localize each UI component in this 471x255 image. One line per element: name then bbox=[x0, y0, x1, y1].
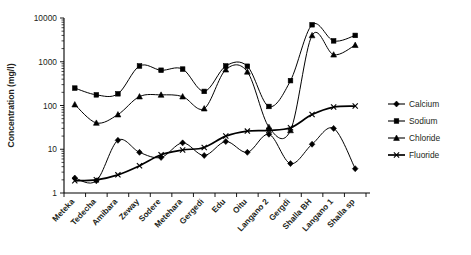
legend-item-fluoride[interactable]: Fluoride bbox=[388, 150, 440, 160]
data-point-calcium-10 bbox=[288, 161, 294, 167]
data-point-sodium-0 bbox=[72, 86, 77, 91]
y-tick-label: 10000 bbox=[34, 13, 58, 23]
legend-marker-diamond bbox=[394, 101, 400, 107]
legend-item-chloride[interactable]: Chloride bbox=[388, 133, 441, 143]
legend-marker-square bbox=[394, 119, 399, 124]
chart-figure: 110100100010000MetekaTedechaAmibaraZeway… bbox=[0, 0, 471, 255]
y-tick-label: 100 bbox=[43, 101, 57, 111]
data-point-sodium-9 bbox=[267, 104, 272, 109]
data-point-sodium-10 bbox=[288, 78, 293, 83]
series-line-chloride bbox=[75, 32, 355, 138]
concentration-line-chart: 110100100010000MetekaTedechaAmibaraZeway… bbox=[0, 0, 471, 255]
x-tick-label: Gergedi bbox=[178, 197, 206, 226]
y-axis-title: Concentration (mg/l) bbox=[6, 63, 16, 147]
legend-label: Chloride bbox=[409, 133, 441, 143]
data-point-sodium-13 bbox=[353, 33, 358, 38]
data-point-calcium-5 bbox=[180, 140, 186, 146]
legend-label: Sodium bbox=[409, 116, 437, 126]
x-tick-label: Oitu bbox=[231, 197, 249, 215]
x-tick-label: Edu bbox=[210, 197, 227, 214]
data-point-chloride-13 bbox=[352, 42, 358, 47]
y-tick-label: 10 bbox=[48, 144, 58, 154]
series-chloride bbox=[72, 32, 358, 138]
series-sodium bbox=[72, 22, 357, 108]
legend-label: Fluoride bbox=[409, 150, 440, 160]
data-point-calcium-6 bbox=[201, 152, 207, 158]
data-point-sodium-8 bbox=[245, 64, 250, 69]
data-point-calcium-7 bbox=[223, 139, 229, 145]
legend-item-calcium[interactable]: Calcium bbox=[388, 99, 439, 109]
series-group bbox=[72, 22, 358, 183]
data-point-sodium-11 bbox=[310, 22, 315, 27]
data-point-sodium-2 bbox=[116, 92, 121, 97]
data-point-sodium-3 bbox=[137, 64, 142, 69]
x-tick-labels: MetekaTedechaAmibaraZewaySodereMeteharaG… bbox=[51, 197, 357, 233]
data-point-chloride-0 bbox=[72, 102, 78, 107]
x-ticks bbox=[64, 193, 366, 197]
y-tick-label: 1000 bbox=[38, 57, 57, 67]
data-point-sodium-4 bbox=[159, 68, 164, 73]
data-point-calcium-8 bbox=[245, 149, 251, 155]
data-point-sodium-5 bbox=[180, 67, 185, 72]
y-tick-label: 1 bbox=[52, 188, 57, 198]
data-point-sodium-1 bbox=[94, 93, 99, 98]
data-point-calcium-13 bbox=[352, 166, 358, 172]
legend-label: Calcium bbox=[409, 99, 439, 109]
data-point-sodium-6 bbox=[202, 89, 207, 94]
axes bbox=[64, 18, 370, 193]
legend-item-sodium[interactable]: Sodium bbox=[388, 116, 437, 126]
legend: CalciumSodiumChlorideFluoride bbox=[388, 99, 441, 160]
data-point-chloride-2 bbox=[115, 112, 121, 117]
data-point-sodium-12 bbox=[331, 39, 336, 44]
data-point-calcium-3 bbox=[137, 149, 143, 155]
y-ticks: 110100100010000 bbox=[34, 13, 64, 198]
